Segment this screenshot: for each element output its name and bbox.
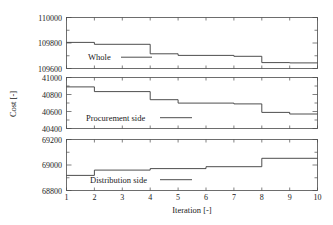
- panel-whole-ytick-0: 109600: [38, 65, 62, 74]
- xtick-1: 1: [65, 193, 69, 202]
- y-axis-title: Cost [-]: [8, 91, 18, 117]
- panel-whole-legend-label: Whole: [88, 52, 111, 62]
- xtick-3: 3: [120, 193, 124, 202]
- xtick-6: 6: [204, 193, 208, 202]
- panel-whole-ytick-2: 110000: [38, 14, 62, 23]
- panel-whole-ytick-1: 109800: [38, 39, 62, 48]
- xtick-10: 10: [314, 193, 322, 202]
- x-axis-title: Iteration [-]: [172, 205, 212, 215]
- xtick-8: 8: [260, 193, 264, 202]
- xtick-4: 4: [148, 193, 152, 202]
- cost-iteration-figure: 110000 109800 109600 Whole: [0, 0, 333, 225]
- xtick-2: 2: [92, 193, 96, 202]
- xtick-7: 7: [232, 193, 236, 202]
- panel-procurement-legend-label: Procurement side: [86, 113, 145, 123]
- panel-procurement-ytick-3: 41000: [42, 74, 62, 83]
- panel-distribution-ytick-1: 69000: [42, 161, 62, 170]
- xtick-9: 9: [288, 193, 292, 202]
- panel-distribution-ytick-0: 68800: [42, 187, 62, 196]
- panel-procurement-ytick-1: 40600: [42, 108, 62, 117]
- panel-procurement-ytick-0: 40400: [42, 125, 62, 134]
- panel-distribution-ytick-2: 69200: [42, 136, 62, 145]
- xtick-5: 5: [176, 193, 180, 202]
- chart-canvas: 110000 109800 109600 Whole: [0, 0, 333, 225]
- panel-procurement-ytick-2: 40800: [42, 91, 62, 100]
- panel-distribution-legend-label: Distribution side: [90, 175, 147, 185]
